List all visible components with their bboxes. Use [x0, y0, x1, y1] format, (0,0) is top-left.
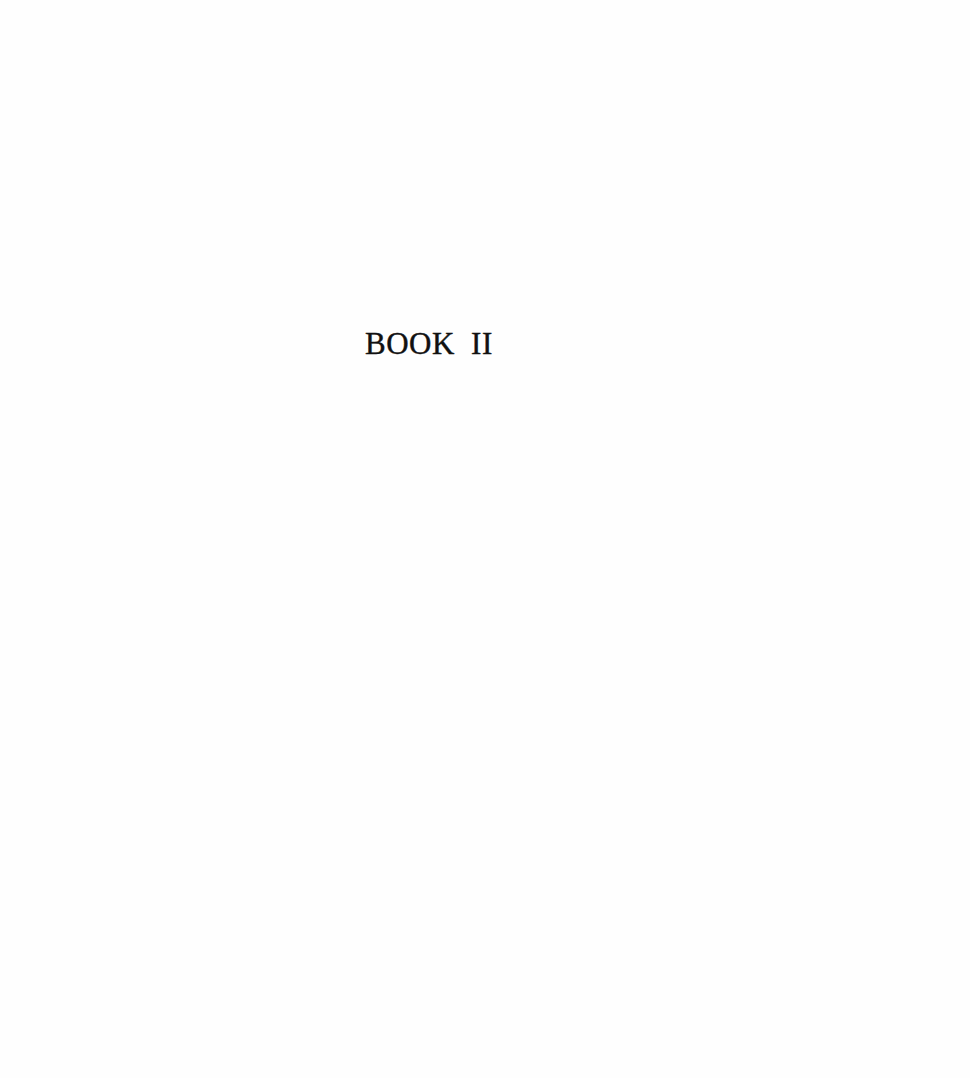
book-part-heading: BOOK II [365, 326, 493, 362]
book-page: BOOK II [0, 0, 970, 1078]
